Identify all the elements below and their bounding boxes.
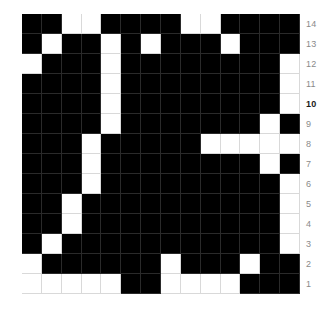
heatmap-cell [161, 214, 181, 234]
heatmap-cell [280, 14, 300, 34]
heatmap-cell [280, 54, 300, 74]
heatmap-cell [82, 214, 102, 234]
heatmap-cell [22, 174, 42, 194]
heatmap-cell [161, 54, 181, 74]
heatmap-cell [260, 254, 280, 274]
heatmap-figure: 1413121110987654321 [0, 0, 334, 314]
heatmap-cell [240, 154, 260, 174]
heatmap-cell [280, 74, 300, 94]
heatmap-cell [280, 234, 300, 254]
heatmap-cell [22, 34, 42, 54]
heatmap-cell [221, 234, 241, 254]
heatmap-cell [42, 74, 62, 94]
heatmap-cell [62, 154, 82, 174]
heatmap-cell [201, 234, 221, 254]
heatmap-cell [181, 154, 201, 174]
heatmap-cell [280, 114, 300, 134]
heatmap-cell [221, 94, 241, 114]
heatmap-cell [101, 74, 121, 94]
heatmap-cell [240, 274, 260, 294]
heatmap-cell [101, 254, 121, 274]
heatmap-cell [240, 94, 260, 114]
heatmap-cell [161, 114, 181, 134]
heatmap-cell [62, 94, 82, 114]
heatmap-cell [221, 14, 241, 34]
y-tick-12: 12 [304, 54, 332, 74]
heatmap-cell [101, 174, 121, 194]
heatmap-cell [141, 74, 161, 94]
heatmap-cell [141, 14, 161, 34]
heatmap-cell [240, 114, 260, 134]
heatmap-cell [181, 254, 201, 274]
heatmap-cell [62, 74, 82, 94]
heatmap-cell [181, 274, 201, 294]
heatmap-cell [201, 74, 221, 94]
heatmap-cell [221, 194, 241, 214]
heatmap-cell [221, 254, 241, 274]
heatmap-cell [121, 174, 141, 194]
heatmap-cell [22, 134, 42, 154]
heatmap-cell [260, 154, 280, 174]
heatmap-cell [181, 174, 201, 194]
heatmap-cell [101, 54, 121, 74]
heatmap-cell [42, 274, 62, 294]
heatmap-cell [240, 14, 260, 34]
heatmap-cell [181, 14, 201, 34]
heatmap-cell [201, 94, 221, 114]
heatmap-cell [121, 274, 141, 294]
heatmap-cell [201, 114, 221, 134]
heatmap-cell [201, 134, 221, 154]
heatmap-cell [62, 14, 82, 34]
heatmap-cell [240, 194, 260, 214]
heatmap-cell [101, 154, 121, 174]
y-tick-2: 2 [304, 254, 332, 274]
heatmap-cell [280, 154, 300, 174]
heatmap-cell [240, 74, 260, 94]
heatmap-cell [62, 234, 82, 254]
heatmap-cell [42, 14, 62, 34]
heatmap-cell [221, 174, 241, 194]
heatmap-cell [62, 274, 82, 294]
heatmap-cell [42, 94, 62, 114]
heatmap-cell [22, 74, 42, 94]
heatmap-cell [22, 254, 42, 274]
heatmap-cell [201, 194, 221, 214]
heatmap-cell [161, 134, 181, 154]
heatmap-cell [280, 274, 300, 294]
heatmap-cell [280, 34, 300, 54]
heatmap-cell [62, 214, 82, 234]
heatmap-cell [42, 54, 62, 74]
heatmap-cell [201, 254, 221, 274]
heatmap-cell [240, 54, 260, 74]
heatmap-cell [201, 274, 221, 294]
heatmap-cell [141, 214, 161, 234]
heatmap-cell [141, 194, 161, 214]
heatmap-cell [141, 54, 161, 74]
heatmap-cell [82, 254, 102, 274]
heatmap-cell [22, 194, 42, 214]
y-tick-6: 6 [304, 174, 332, 194]
heatmap-cell [181, 214, 201, 234]
y-tick-4: 4 [304, 214, 332, 234]
y-tick-11: 11 [304, 74, 332, 94]
heatmap-cell [240, 254, 260, 274]
heatmap-cell [121, 254, 141, 274]
heatmap-cell [221, 134, 241, 154]
heatmap-cell [181, 74, 201, 94]
heatmap-cell [161, 194, 181, 214]
heatmap-cell [62, 114, 82, 134]
heatmap-cell [121, 194, 141, 214]
heatmap-cell [141, 114, 161, 134]
heatmap-cell [260, 114, 280, 134]
heatmap-cell [161, 34, 181, 54]
heatmap-cell [22, 114, 42, 134]
heatmap-cell [161, 94, 181, 114]
heatmap-cell [221, 34, 241, 54]
heatmap-cell [221, 114, 241, 134]
heatmap-cell [121, 34, 141, 54]
heatmap-cell [121, 134, 141, 154]
heatmap-cell [141, 134, 161, 154]
heatmap-cell [141, 34, 161, 54]
heatmap-cell [181, 114, 201, 134]
heatmap-cell [101, 134, 121, 154]
